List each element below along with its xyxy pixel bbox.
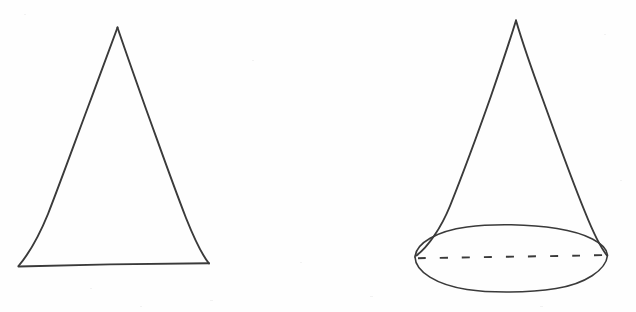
cone-left-slant [417, 21, 517, 256]
cone-right-slant [516, 21, 607, 256]
cone-shape [415, 21, 608, 293]
figure-sheet [0, 0, 636, 312]
cone-base-front-arc [415, 256, 608, 293]
cone-hidden-diameter [418, 255, 605, 258]
cone-base-back-arc [415, 225, 608, 257]
cone-figure [0, 0, 636, 312]
